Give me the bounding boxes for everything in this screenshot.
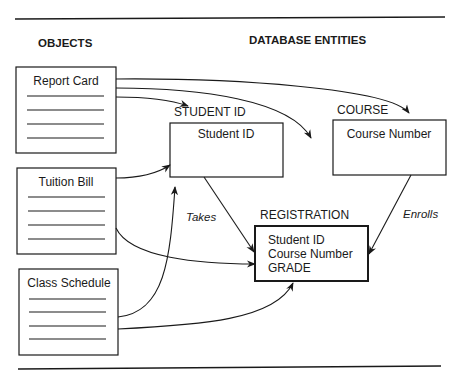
entity-field: Student ID [268, 233, 325, 247]
object-class-schedule: Class Schedule [19, 269, 118, 355]
entity-field: Course Number [268, 247, 353, 261]
entity-registration: REGISTRATION Student ID Course Number GR… [255, 208, 368, 281]
entity-field: Course Number [347, 127, 432, 141]
object-report-card: Report Card [16, 67, 116, 153]
arrow-class-schedule-to-student-id [118, 187, 175, 317]
entity-field: Student ID [198, 127, 255, 141]
entity-label: COURSE [337, 103, 388, 117]
entity-student-id: STUDENT ID Student ID [170, 105, 283, 177]
object-title: Tuition Bill [39, 175, 94, 189]
entity-field: GRADE [268, 261, 311, 275]
top-rule [15, 17, 445, 19]
arrow-tuition-bill-to-student-id [116, 165, 170, 178]
objects-header: OBJECTS [38, 37, 93, 49]
entity-label: STUDENT ID [174, 105, 246, 119]
object-tuition-bill: Tuition Bill [17, 168, 116, 254]
object-title: Report Card [33, 74, 98, 88]
data-model-diagram: OBJECTS DATABASE ENTITIES Report Card Tu… [0, 0, 459, 375]
database-entities-header: DATABASE ENTITIES [249, 34, 366, 46]
arrow-tuition-bill-to-registration [116, 228, 255, 264]
bottom-rule [18, 366, 441, 369]
entity-course: COURSE Course Number [333, 103, 446, 175]
entity-label: REGISTRATION [260, 208, 349, 222]
relationship-label-takes: Takes [186, 211, 217, 223]
object-title: Class Schedule [27, 276, 111, 290]
relationship-label-enrolls: Enrolls [403, 208, 438, 220]
